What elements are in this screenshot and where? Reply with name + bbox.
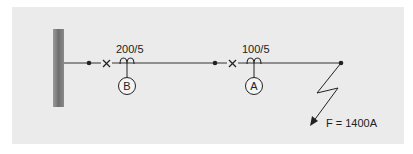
breaker-b-icon — [101, 58, 112, 68]
ct-a-ratio: 100/5 — [242, 43, 270, 55]
bus-node-dot — [213, 61, 218, 66]
ct-a-icon — [247, 58, 261, 78]
breaker-a-icon — [227, 58, 238, 68]
bus-node-dot — [87, 61, 92, 66]
ct-b-ratio: 200/5 — [116, 43, 144, 55]
source-bus-bar — [53, 29, 64, 107]
one-line-diagram: 200/5 B 100/5 A F = 1400A — [0, 0, 413, 154]
relay-a: A — [246, 78, 263, 95]
relay-b-label: B — [123, 80, 130, 92]
relay-b: B — [119, 78, 136, 95]
relay-a-label: A — [250, 80, 258, 92]
ct-b-icon — [120, 58, 134, 78]
fault-current-label: F = 1400A — [326, 117, 378, 129]
